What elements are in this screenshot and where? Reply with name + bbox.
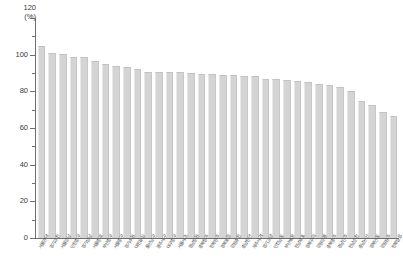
bar[interactable] [80, 57, 88, 239]
x-axis-label-slot: 전북전주 [207, 239, 218, 276]
bar-slot [79, 18, 90, 238]
bar[interactable] [347, 91, 355, 238]
x-axis-label-slot: 강원춘천 [228, 239, 239, 276]
x-axis-label-slot: 전남순천 [345, 239, 356, 276]
bar[interactable] [379, 112, 387, 239]
bar[interactable] [144, 72, 152, 238]
bar-slot [153, 18, 164, 238]
x-axis-label-slot: 경북포항 [217, 239, 228, 276]
y-axis-minor-tick [32, 73, 35, 74]
bar-slot [185, 18, 196, 238]
bar[interactable] [251, 76, 259, 238]
x-axis-label-slot: 전남목포 [292, 239, 303, 276]
y-axis-tick [30, 55, 35, 56]
bar-slot [175, 18, 186, 238]
bar[interactable] [336, 87, 344, 238]
y-axis-tick-label: 0 [2, 234, 28, 242]
x-axis-label-slot: 경북안동 [367, 239, 378, 276]
bar-slot [378, 18, 389, 238]
bar[interactable] [368, 105, 376, 238]
y-axis-tick-label: 80 [2, 87, 28, 95]
bar[interactable] [230, 75, 238, 238]
bar[interactable] [123, 67, 131, 238]
x-axis-labels: 서울관악경기과천서울강남인천중구경기성남서울종로부산중구서울중구경기수원대전유성… [36, 239, 399, 276]
bar-slot [271, 18, 282, 238]
bar[interactable] [112, 66, 120, 238]
bar[interactable] [326, 85, 334, 238]
bar[interactable] [59, 54, 67, 238]
bar[interactable] [198, 74, 206, 238]
bar[interactable] [134, 69, 142, 238]
bar-slot [335, 18, 346, 238]
x-axis-label-slot: 인천남동 [271, 239, 282, 276]
bar-slot [111, 18, 122, 238]
bar-slot [260, 18, 271, 238]
bar[interactable] [272, 79, 280, 238]
x-axis-label-slot: 충남논산 [356, 239, 367, 276]
bar-slot [121, 18, 132, 238]
bar[interactable] [208, 74, 216, 238]
bar-slot [324, 18, 335, 238]
x-axis-label-slot: 서울관악 [36, 239, 47, 276]
y-axis-max-label: 120 [6, 3, 36, 12]
x-axis-label-slot: 서울강남 [57, 239, 68, 276]
x-axis-label-slot: 경기성남 [79, 239, 90, 276]
bar[interactable] [240, 76, 248, 238]
bar-slot [143, 18, 154, 238]
x-axis-label-slot: 경기고양 [260, 239, 271, 276]
bar-slot [239, 18, 250, 238]
y-axis-minor-tick [32, 110, 35, 111]
x-axis-label-slot: 강원강릉 [313, 239, 324, 276]
bar[interactable] [390, 116, 398, 238]
bar[interactable] [262, 79, 270, 239]
bar-slot [249, 18, 260, 238]
x-axis-label-slot: 경기수원 [121, 239, 132, 276]
x-axis-label-slot: 강원원주 [378, 239, 389, 276]
bar[interactable] [38, 46, 46, 239]
bar[interactable] [70, 57, 78, 239]
bar-slot [36, 18, 47, 238]
bar[interactable] [155, 72, 163, 238]
bar[interactable] [176, 72, 184, 238]
y-axis-tick [30, 91, 35, 92]
x-axis-label-slot: 경남진주 [335, 239, 346, 276]
bar-slot [303, 18, 314, 238]
y-axis-tick-label: 40 [2, 161, 28, 169]
x-axis-label-slot: 부산중구 [100, 239, 111, 276]
bar-slot [292, 18, 303, 238]
y-axis-tick-label: 100 [2, 51, 28, 59]
y-axis-tick [30, 165, 35, 166]
bar[interactable] [219, 75, 227, 238]
x-axis-label-slot: 대전유성 [132, 239, 143, 276]
x-axis-label-slot: 제주서귀 [249, 239, 260, 276]
x-axis-label-slot: 충북청주 [196, 239, 207, 276]
bar[interactable] [48, 53, 56, 238]
bar-slot [388, 18, 399, 238]
bar-series [36, 18, 399, 238]
bar-slot [281, 18, 292, 238]
x-axis-label-slot: 충남천안 [239, 239, 250, 276]
bar-slot [345, 18, 356, 238]
y-axis-tick-label: 60 [2, 124, 28, 132]
bar[interactable] [283, 80, 291, 238]
bar[interactable] [91, 61, 99, 238]
bar-slot [100, 18, 111, 238]
bar[interactable] [294, 81, 302, 238]
x-axis-label-slot: 충북충주 [324, 239, 335, 276]
x-axis-label-slot: 인천중구 [68, 239, 79, 276]
x-axis-label-slot: 서울중구 [111, 239, 122, 276]
y-axis-tick [30, 18, 35, 19]
bar[interactable] [102, 64, 110, 238]
x-axis-label-slot: 경남창원 [185, 239, 196, 276]
bar[interactable] [187, 73, 195, 238]
bar-slot [228, 18, 239, 238]
bar-slot [47, 18, 58, 238]
bar-slot [313, 18, 324, 238]
bar[interactable] [166, 72, 174, 238]
bar[interactable] [304, 82, 312, 238]
y-axis-tick-label: 20 [2, 197, 28, 205]
x-axis-label-slot: 부산해운 [281, 239, 292, 276]
bar[interactable] [358, 101, 366, 238]
bar[interactable] [315, 84, 323, 238]
